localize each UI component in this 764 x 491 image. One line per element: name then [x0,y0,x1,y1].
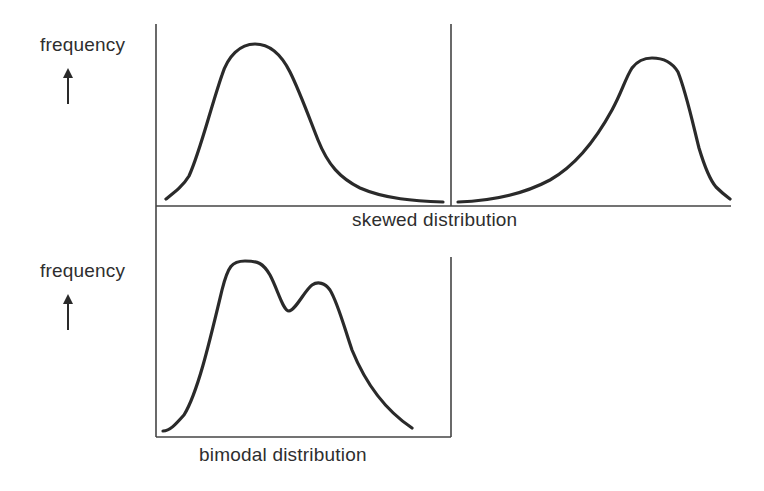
skewed-distribution-caption: skewed distribution [352,210,517,229]
lower-y-axis-label: frequency [40,261,125,280]
left-skewed-curve [458,58,730,202]
bimodal-curve [163,261,412,431]
bimodal-distribution-caption: bimodal distribution [199,445,367,464]
right-skewed-curve [166,44,443,202]
upper-panel-axes [156,24,731,437]
upper-y-axis-label: frequency [40,35,125,54]
distribution-figure [0,0,764,491]
